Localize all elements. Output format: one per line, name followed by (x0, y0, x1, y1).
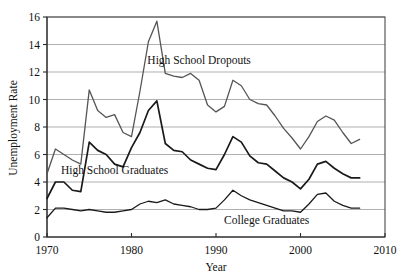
series-annotation-college: College Graduates (224, 214, 310, 227)
series-line-high-school-graduates (47, 101, 360, 199)
y-tick-label-2: 2 (34, 204, 40, 216)
x-tick-label-2000: 2000 (289, 244, 312, 256)
x-tick-label-2010: 2010 (374, 244, 397, 256)
y-axis-title: Unemployment Rate (7, 80, 20, 176)
y-tick-label-6: 6 (34, 149, 40, 161)
series-annotation-graduates: High School Graduates (61, 164, 169, 177)
y-tick-label-4: 4 (34, 176, 40, 188)
series-line-high-school-dropouts (47, 21, 360, 174)
y-tick-label-14: 14 (29, 39, 41, 51)
x-axis-title: Year (205, 261, 226, 273)
series-annotation-dropouts: High School Dropouts (147, 54, 251, 67)
unemployment-rate-line-chart: 0246810121416 19701980199020002010 High … (0, 0, 410, 277)
y-tick-label-12: 12 (29, 66, 41, 78)
chart-canvas: 0246810121416 19701980199020002010 High … (0, 0, 410, 277)
y-axis-ticks-group: 0246810121416 (29, 11, 48, 243)
gridlines-group (47, 17, 385, 210)
y-tick-label-16: 16 (29, 11, 41, 23)
series-group (47, 21, 360, 218)
y-tick-label-10: 10 (29, 94, 41, 106)
y-tick-label-8: 8 (34, 121, 40, 133)
y-tick-label-0: 0 (34, 231, 40, 243)
x-tick-label-1970: 1970 (36, 244, 59, 256)
series-line-college-graduates (47, 190, 360, 218)
series-annotations-group: High School DropoutsHigh School Graduate… (61, 54, 310, 227)
x-tick-label-1990: 1990 (205, 244, 228, 256)
x-tick-label-1980: 1980 (120, 244, 143, 256)
